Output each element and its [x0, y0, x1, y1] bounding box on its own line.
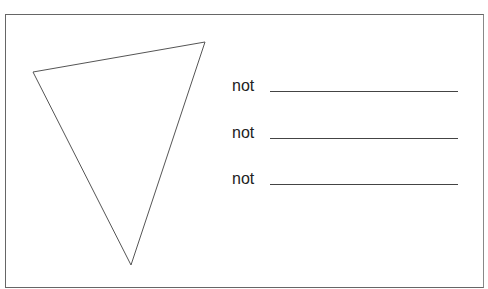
answer-blank[interactable] [270, 138, 458, 139]
row-label: not [232, 76, 254, 96]
row-label: not [232, 169, 254, 189]
answer-blank[interactable] [270, 184, 458, 185]
triangle-shape [33, 42, 205, 265]
row-label: not [232, 123, 254, 143]
triangle-figure [0, 0, 488, 289]
answer-blank[interactable] [270, 91, 458, 92]
